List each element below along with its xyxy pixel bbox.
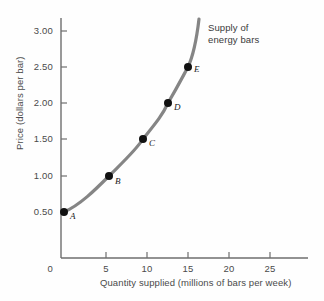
chart-plot-area — [0, 0, 324, 301]
x-axis-ticks — [106, 252, 270, 258]
x-axis-title: Quantity supplied (millions of bars per … — [100, 277, 291, 288]
y-axis-title: Price (dollars per bar) — [14, 56, 25, 150]
data-point-c — [139, 135, 147, 143]
x-tick-label-15: 15 — [168, 263, 208, 274]
point-label-b: B — [115, 176, 121, 186]
data-point-d — [164, 99, 172, 107]
y-tick-label-1.00: 1.00 — [8, 170, 53, 181]
x-tick-label-5: 5 — [86, 263, 126, 274]
point-label-e: E — [194, 64, 200, 74]
supply-curve-annotation: Supply of energy bars — [208, 22, 259, 45]
data-point-b — [105, 172, 113, 180]
data-point-e — [184, 63, 192, 71]
supply-curve-line — [64, 19, 199, 212]
point-label-c: C — [149, 138, 155, 148]
data-point-a — [60, 208, 68, 216]
x-tick-label-20: 20 — [209, 263, 249, 274]
x-tick-label-10: 10 — [127, 263, 167, 274]
point-label-a: A — [70, 211, 76, 221]
supply-curve-annotation-line2: energy bars — [208, 34, 259, 46]
y-tick-label-3.00: 3.00 — [8, 25, 53, 36]
point-label-d: D — [174, 102, 181, 112]
supply-curve-chart: 3.00 2.50 2.00 1.50 1.00 0.50 0 5 10 15 … — [0, 0, 324, 301]
y-axis-ticks — [61, 31, 67, 212]
x-tick-label-25: 25 — [250, 263, 290, 274]
data-point-markers — [60, 63, 192, 216]
supply-curve-annotation-line1: Supply of — [208, 22, 259, 34]
y-tick-label-0: 0 — [8, 263, 53, 274]
y-tick-label-0.50: 0.50 — [8, 206, 53, 217]
